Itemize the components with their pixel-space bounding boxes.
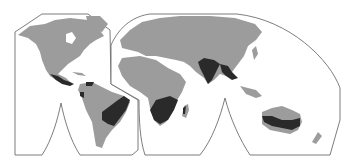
world-map [0,0,351,164]
